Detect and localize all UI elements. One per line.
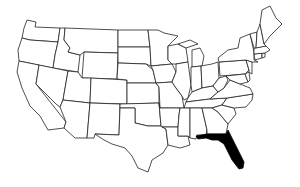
- state-north-dakota[interactable]: [118, 30, 150, 47]
- map-svg: [0, 0, 300, 187]
- state-wyoming[interactable]: [82, 52, 118, 79]
- state-washington[interactable]: [22, 20, 60, 42]
- state-rhode-island[interactable]: [262, 53, 265, 58]
- state-indiana[interactable]: [191, 66, 202, 92]
- state-pennsylvania[interactable]: [219, 60, 249, 76]
- state-kansas[interactable]: [127, 83, 159, 104]
- state-mississippi[interactable]: [178, 108, 190, 138]
- state-arizona[interactable]: [60, 100, 90, 138]
- state-maine[interactable]: [260, 6, 282, 44]
- us-map: United States: [0, 0, 300, 187]
- state-colorado[interactable]: [90, 78, 127, 104]
- state-florida[interactable]: [196, 130, 244, 169]
- state-new-mexico[interactable]: [87, 103, 120, 138]
- state-montana[interactable]: [64, 28, 118, 55]
